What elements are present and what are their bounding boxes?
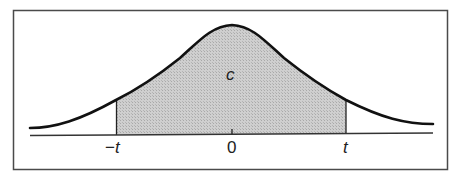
normal-distribution-figure: c −t 0 t: [0, 0, 457, 181]
area-label-c: c: [226, 65, 235, 84]
left-bound-label: −t: [105, 138, 121, 157]
center-label: 0: [227, 138, 236, 157]
